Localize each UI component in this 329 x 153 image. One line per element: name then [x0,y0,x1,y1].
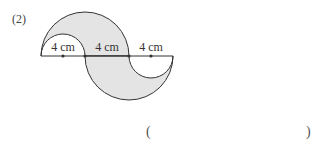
answer-close-paren: ) [306,124,311,140]
shaded-figure-diagram: 4 cm 4 cm 4 cm [0,0,329,153]
shaded-region-lower [85,56,173,100]
division-point-2 [127,54,130,57]
center-point-2 [149,54,152,57]
center-point-1 [61,54,64,57]
answer-open-paren: ( [146,124,151,140]
segment-label-3: 4 cm [139,40,163,54]
segment-label-2: 4 cm [95,40,119,54]
division-point-1 [83,54,86,57]
segment-label-1: 4 cm [51,40,75,54]
